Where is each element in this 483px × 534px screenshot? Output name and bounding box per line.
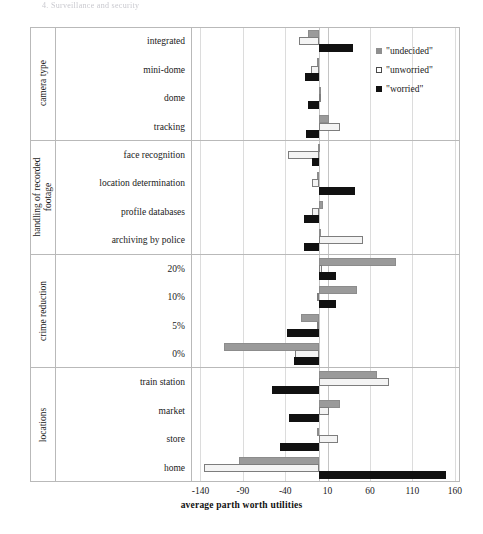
x-tick--90: -90 xyxy=(237,484,250,498)
legend-label-worried: "worried" xyxy=(386,84,423,94)
row-label-market: market xyxy=(159,405,185,416)
bar-worried-face-recognition xyxy=(312,158,319,166)
bar-worried-dome xyxy=(308,101,319,109)
bar-worried-archiving-by-police xyxy=(304,243,319,251)
row-label-10pct: 10% xyxy=(168,292,185,303)
legend-label-undecided: "undecided" xyxy=(386,46,433,56)
chart-group-crime-reduction: crime reduction20%10%5%0% xyxy=(30,255,460,369)
bar-worried-market xyxy=(289,414,319,422)
bar-worried-20pct xyxy=(319,272,336,280)
x-tick-60: 60 xyxy=(365,484,375,498)
bar-unworried-home xyxy=(204,464,319,472)
bar-worried-integrated xyxy=(319,44,353,52)
row-label-store: store xyxy=(167,434,185,445)
row-label-column: 20%10%5%0% xyxy=(56,255,192,368)
row-label-integrated: integrated xyxy=(147,36,185,47)
bar-worried-5pct xyxy=(287,329,319,337)
chart-group-handling-of-recorded-footage: handling of recorded footageface recogni… xyxy=(30,141,460,255)
bar-unworried-integrated xyxy=(299,37,319,45)
bar-undecided-20pct xyxy=(319,258,396,266)
row-label-location-determination: location determination xyxy=(99,178,185,189)
row-label-home: home xyxy=(164,462,185,473)
legend-swatch-unworried-icon xyxy=(376,67,382,73)
bar-worried-train-station xyxy=(272,386,319,394)
group-label: handling of recorded footage xyxy=(32,149,54,245)
x-tick--140: -140 xyxy=(192,484,209,498)
group-plot-area xyxy=(192,368,460,482)
bar-unworried-dome xyxy=(319,94,321,102)
group-label: locations xyxy=(37,408,48,442)
bar-unworried-market xyxy=(319,407,329,415)
legend-item-undecided: "undecided" xyxy=(376,41,481,60)
bar-worried-tracking xyxy=(306,130,320,138)
bar-unworried-tracking xyxy=(319,123,340,131)
bar-worried-profile-databases xyxy=(304,215,319,223)
row-label-5pct: 5% xyxy=(172,320,185,331)
group-label: crime reduction xyxy=(37,281,48,341)
row-label-dome: dome xyxy=(164,93,185,104)
legend-item-unworried: "unworried" xyxy=(376,60,481,79)
group-plot-area xyxy=(192,255,460,368)
legend-item-worried: "worried" xyxy=(376,79,481,98)
group-plot-area xyxy=(192,141,460,254)
row-label-column: integratedmini-domedometracking xyxy=(56,27,192,140)
bar-undecided-profile-databases xyxy=(319,201,322,209)
x-axis-label: average parth worth utilities xyxy=(0,500,483,510)
bar-chart: camera typeintegratedmini-domedometracki… xyxy=(0,0,483,534)
row-label-train-station: train station xyxy=(140,377,185,388)
row-label-profile-databases: profile databases xyxy=(121,206,185,217)
row-label-archiving-by-police: archiving by police xyxy=(112,235,185,246)
group-label-cell: camera type xyxy=(30,27,56,140)
bar-worried-home xyxy=(319,471,446,479)
bar-worried-0pct xyxy=(294,357,319,365)
bar-unworried-store xyxy=(319,435,338,443)
x-tick-10: 10 xyxy=(323,484,333,498)
chart-group-locations: locationstrain stationmarketstorehome xyxy=(30,368,460,482)
bar-worried-store xyxy=(280,443,319,451)
row-label-column: face recognitionlocation determinationpr… xyxy=(56,141,192,254)
bar-unworried-archiving-by-police xyxy=(319,236,363,244)
legend-swatch-worried-icon xyxy=(376,86,382,92)
bar-unworried-train-station xyxy=(319,378,389,386)
chart-legend: "undecided" "unworried" "worried" xyxy=(376,41,481,98)
row-label-tracking: tracking xyxy=(154,121,185,132)
row-label-face-recognition: face recognition xyxy=(124,149,185,160)
group-label-cell: handling of recorded footage xyxy=(30,141,56,254)
legend-swatch-undecided-icon xyxy=(376,48,382,54)
bar-worried-10pct xyxy=(319,300,336,308)
bar-unworried-location-determination xyxy=(312,179,319,187)
bar-worried-location-determination xyxy=(319,187,355,195)
row-label-column: train stationmarketstorehome xyxy=(56,368,192,482)
group-label-cell: locations xyxy=(30,368,56,482)
x-tick--40: -40 xyxy=(279,484,292,498)
bar-worried-mini-dome xyxy=(305,73,319,81)
x-tick-160: 160 xyxy=(448,484,462,498)
row-label-mini-dome: mini-dome xyxy=(143,64,185,75)
group-label-cell: crime reduction xyxy=(30,255,56,368)
x-tick-110: 110 xyxy=(405,484,419,498)
bar-undecided-10pct xyxy=(319,286,357,294)
legend-label-unworried: "unworried" xyxy=(386,65,433,75)
row-label-20pct: 20% xyxy=(168,263,185,274)
group-label: camera type xyxy=(37,60,48,106)
row-label-0pct: 0% xyxy=(172,349,185,360)
